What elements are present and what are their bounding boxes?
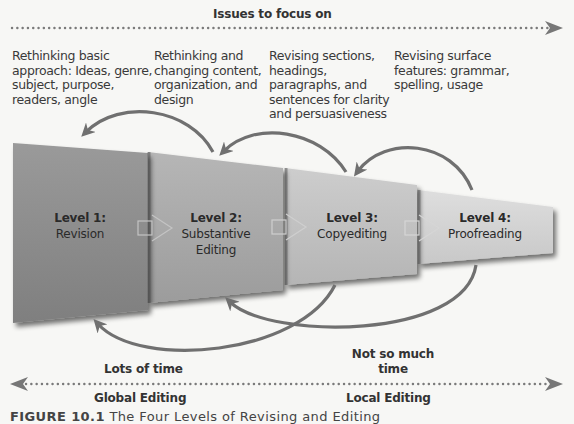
- time-label-line: Not so much: [346, 347, 440, 362]
- issue-line: approach: Ideas, genre,: [12, 64, 152, 79]
- issue-level-3: Revising sections, headings, paragraphs,…: [269, 49, 389, 122]
- level-3-label: Level 3: Copyediting: [292, 210, 412, 242]
- issue-level-2: Rethinking and changing content, organiz…: [154, 49, 262, 107]
- issue-line: design: [154, 93, 262, 108]
- issue-line: Revising sections,: [269, 49, 389, 64]
- issue-line: changing content,: [154, 64, 262, 79]
- time-label-little: Not so much time: [346, 347, 440, 377]
- feedback-arrow-2-to-1: [86, 112, 213, 152]
- level-title: Level 3:: [292, 210, 412, 226]
- issue-level-4: Revising surface features: grammar, spel…: [394, 49, 509, 93]
- issue-line: headings,: [269, 64, 389, 79]
- level-1-label: Level 1: Revision: [20, 210, 140, 242]
- level-title: Level 4:: [425, 210, 545, 226]
- figure-caption: FIGURE 10.1 The Four Levels of Revising …: [10, 409, 381, 424]
- editing-scope-axis: [10, 377, 563, 391]
- local-editing-label: Local Editing: [346, 391, 431, 405]
- level-2-label: Level 2: Substantive Editing: [156, 210, 276, 258]
- level-name: Proofreading: [425, 226, 545, 242]
- issue-level-1: Rethinking basic approach: Ideas, genre,…: [12, 49, 152, 107]
- issue-line: readers, angle: [12, 93, 152, 108]
- issue-line: sentences for clarity: [269, 93, 389, 108]
- issue-line: features: grammar,: [394, 64, 509, 79]
- issue-line: Rethinking and: [154, 49, 262, 64]
- issue-line: subject, purpose,: [12, 78, 152, 93]
- level-4-label: Level 4: Proofreading: [425, 210, 545, 242]
- issue-line: paragraphs, and: [269, 78, 389, 93]
- global-editing-label: Global Editing: [94, 391, 186, 405]
- issue-line: organization, and: [154, 78, 262, 93]
- level-name: Revision: [20, 226, 140, 242]
- issue-line: spelling, usage: [394, 78, 509, 93]
- level-name: Editing: [156, 242, 276, 258]
- caption-prefix: FIGURE 10.1: [10, 409, 105, 424]
- issue-line: and persuasiveness: [269, 107, 389, 122]
- time-label-lots: Lots of time: [104, 362, 183, 376]
- time-label-line: time: [346, 362, 440, 377]
- level-title: Level 2:: [156, 210, 276, 226]
- caption-text: The Four Levels of Revising and Editing: [109, 409, 380, 424]
- issue-line: Revising surface: [394, 49, 509, 64]
- level-name: Copyediting: [292, 226, 412, 242]
- level-title: Level 1:: [20, 210, 140, 226]
- level-name: Substantive: [156, 226, 276, 242]
- issues-axis-arrow: [12, 21, 563, 35]
- issue-line: Rethinking basic: [12, 49, 152, 64]
